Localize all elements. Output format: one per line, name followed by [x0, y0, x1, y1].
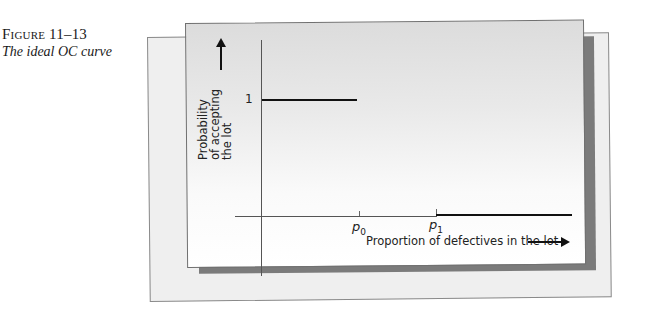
curve-reject-segment — [436, 214, 572, 216]
figure-caption: Figure 11–13 The ideal OC curve — [2, 26, 112, 60]
figure-title: The ideal OC curve — [2, 44, 112, 60]
y-axis-label: Probability of accepting the lot — [197, 89, 233, 160]
figure-number: Figure 11–13 — [2, 26, 112, 43]
x-axis-arrow-shaft — [528, 241, 562, 243]
x-tick-label-p0: p0 — [352, 219, 366, 237]
x-tick-label-p1: p1 — [429, 217, 443, 235]
x-tick-p1 — [436, 209, 437, 214]
arrow-up-icon — [216, 38, 226, 48]
x-tick-p0 — [359, 211, 360, 216]
y-axis — [261, 40, 262, 276]
x-axis — [235, 216, 437, 217]
curve-accept-segment — [262, 99, 357, 101]
y-label-line-3: the lot — [221, 89, 233, 160]
y-tick-label-one: 1 — [245, 92, 253, 106]
chart-panel — [185, 20, 586, 268]
arrow-right-icon — [561, 237, 571, 247]
